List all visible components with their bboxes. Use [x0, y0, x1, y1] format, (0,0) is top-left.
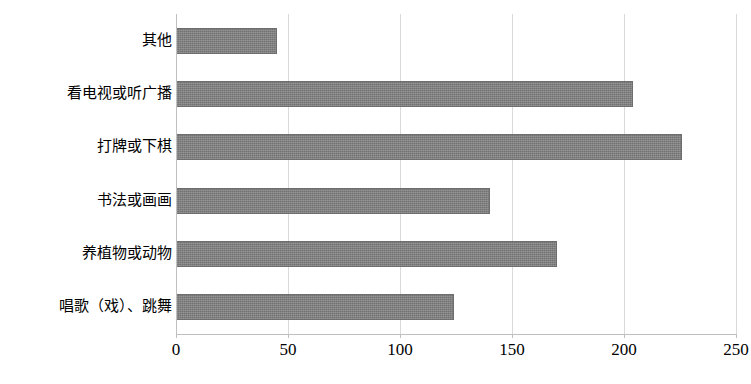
- bar: [176, 134, 682, 160]
- bar-chart: 唱歌（戏）、跳舞养植物或动物书法或画画打牌或下棋看电视或听广播其他 050100…: [0, 0, 751, 384]
- bar: [176, 81, 633, 107]
- x-axis-tick: [400, 334, 401, 338]
- x-axis-tick-label: 200: [611, 340, 637, 360]
- y-axis-category-label: 书法或画画: [4, 193, 172, 208]
- y-axis-category-label: 其他: [4, 33, 172, 48]
- x-axis-tick-label: 150: [499, 340, 525, 360]
- x-axis-line: [176, 334, 736, 335]
- y-axis-category-label: 看电视或听广播: [4, 86, 172, 101]
- x-axis-tick: [288, 334, 289, 338]
- y-axis-category-label: 唱歌（戏）、跳舞: [4, 299, 172, 314]
- x-axis-tick: [512, 334, 513, 338]
- x-axis-tick-label: 0: [172, 340, 181, 360]
- gridline: [512, 14, 513, 334]
- x-axis-tick: [624, 334, 625, 338]
- y-axis-labels: 唱歌（戏）、跳舞养植物或动物书法或画画打牌或下棋看电视或听广播其他: [0, 14, 172, 334]
- gridline: [400, 14, 401, 334]
- gridline: [736, 14, 737, 334]
- x-axis-tick-label: 50: [280, 340, 297, 360]
- bar: [176, 294, 454, 320]
- y-axis-category-label: 打牌或下棋: [4, 139, 172, 154]
- plot-area: [176, 14, 736, 334]
- bar: [176, 241, 557, 267]
- bar: [176, 28, 277, 54]
- gridline: [624, 14, 625, 334]
- x-axis-tick: [736, 334, 737, 338]
- x-axis-tick-label: 100: [387, 340, 413, 360]
- x-axis-tick-label: 250: [723, 340, 749, 360]
- bar: [176, 188, 490, 214]
- y-axis-line: [176, 14, 177, 334]
- x-axis-labels: 050100150200250: [0, 340, 751, 370]
- gridline: [288, 14, 289, 334]
- y-axis-category-label: 养植物或动物: [4, 246, 172, 261]
- x-axis-tick: [176, 334, 177, 338]
